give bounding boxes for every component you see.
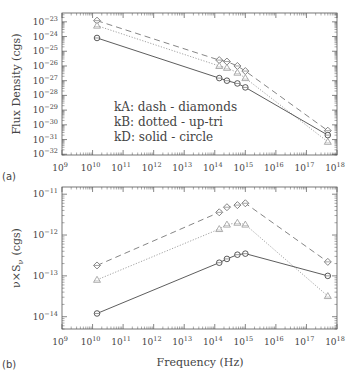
panel-label-a: (a) bbox=[2, 171, 16, 182]
triangle-marker bbox=[223, 64, 230, 70]
triangle-marker bbox=[234, 69, 241, 75]
tick-label: 1011 bbox=[111, 161, 131, 173]
tick-label: 1014 bbox=[203, 161, 223, 173]
tick-label: 10−14 bbox=[33, 310, 58, 322]
y-axis-title-bottom: ν×Sν(cgs) bbox=[10, 228, 25, 288]
series-line-kb bbox=[97, 223, 328, 296]
tick-label: 1017 bbox=[295, 335, 315, 347]
tick-label: 10−24 bbox=[33, 30, 58, 42]
tick-label: 1014 bbox=[203, 335, 223, 347]
tick-label: 1010 bbox=[81, 161, 101, 173]
series-line-kd bbox=[97, 254, 328, 314]
panel-a-flux-density: 1091010101110121013101410151016101710181… bbox=[33, 13, 345, 173]
tick-label: 10−23 bbox=[33, 15, 58, 27]
tick-label: 109 bbox=[52, 161, 68, 173]
triangle-marker bbox=[216, 226, 223, 232]
sed-figure: 1091010101110121013101410151016101710181… bbox=[0, 0, 360, 378]
tick-label: 10−30 bbox=[33, 118, 58, 130]
tick-label: 1011 bbox=[111, 335, 131, 347]
triangle-marker bbox=[94, 276, 101, 282]
tick-label: 1018 bbox=[325, 335, 345, 347]
x-axis-title: Frequency (Hz) bbox=[157, 356, 244, 369]
tick-label: 10−28 bbox=[33, 88, 58, 100]
triangle-marker bbox=[324, 293, 331, 299]
legend-entry-ka: kA: dash - diamonds bbox=[114, 100, 237, 114]
tick-label: 10−13 bbox=[33, 269, 58, 281]
triangle-marker bbox=[242, 75, 249, 81]
tick-label: 10−12 bbox=[33, 228, 58, 240]
tick-label: 1016 bbox=[264, 161, 284, 173]
triangle-marker bbox=[94, 22, 101, 28]
series-line-ka bbox=[97, 203, 328, 265]
tick-label: 1015 bbox=[233, 161, 253, 173]
tick-label: 1012 bbox=[142, 335, 162, 347]
tick-label: 1016 bbox=[264, 335, 284, 347]
y-axis-title-top: Flux Density (cgs) bbox=[10, 33, 23, 134]
triangle-marker bbox=[234, 219, 241, 225]
tick-label: 10−11 bbox=[33, 187, 58, 199]
tick-label: 1012 bbox=[142, 161, 162, 173]
legend-entry-kd: kD: solid - circle bbox=[114, 130, 213, 144]
legend: kA: dash - diamonds kB: dotted - up-tri … bbox=[114, 100, 237, 144]
tick-label: 10−26 bbox=[33, 59, 58, 71]
tick-label: 1018 bbox=[325, 161, 345, 173]
tick-label: 1015 bbox=[233, 335, 253, 347]
tick-label: 1010 bbox=[81, 335, 101, 347]
tick-label: 10−29 bbox=[33, 103, 58, 115]
panel-label-b: (b) bbox=[2, 359, 16, 370]
tick-label: 10−32 bbox=[33, 147, 58, 159]
tick-label: 1013 bbox=[172, 335, 192, 347]
tick-label: 10−25 bbox=[33, 44, 58, 56]
legend-entry-kb: kB: dotted - up-tri bbox=[114, 115, 223, 129]
tick-label: 1013 bbox=[172, 161, 192, 173]
tick-label: 10−31 bbox=[33, 133, 58, 145]
tick-label: 10−27 bbox=[33, 74, 58, 86]
panel-b-nu-s-nu: 1091010101110121013101410151016101710181… bbox=[33, 187, 345, 347]
tick-label: 1017 bbox=[295, 161, 315, 173]
triangle-marker bbox=[324, 138, 331, 144]
plot-frame bbox=[62, 187, 337, 329]
tick-label: 109 bbox=[52, 335, 68, 347]
